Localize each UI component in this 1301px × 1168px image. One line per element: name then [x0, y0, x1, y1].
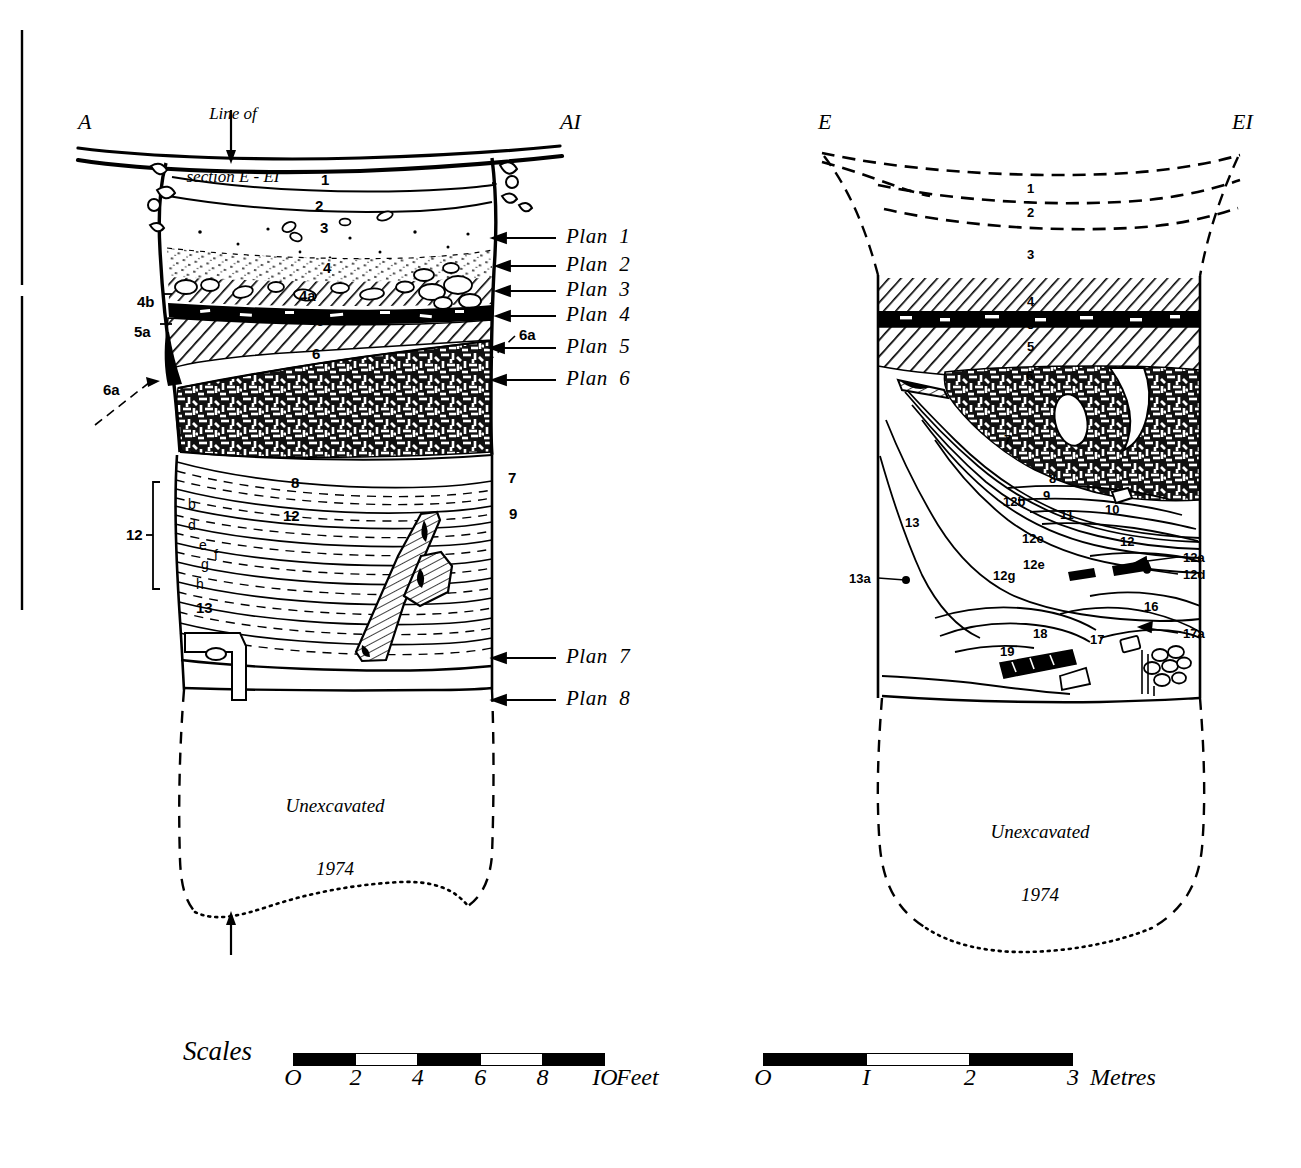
- left-ground-surface: [78, 146, 560, 159]
- stratum-r-12b: 12b: [1003, 495, 1025, 510]
- stratum-l-6a-left: 6a: [103, 382, 120, 399]
- left-6a-leader-arrow: [146, 377, 160, 387]
- stratum-r-10: 10: [1105, 503, 1119, 518]
- stratum-r-12g: 12g: [993, 569, 1015, 584]
- right-unexcavated-line2: 1974: [945, 884, 1135, 905]
- line-of-section-note: Line of section E - EI: [158, 60, 308, 230]
- stratum-r-17a: 17a: [1183, 627, 1205, 642]
- feet-scale-tick-O: O: [271, 1064, 315, 1091]
- plan-4-label: Plan 4: [566, 303, 630, 327]
- metres-scale-tick-2: 2: [948, 1064, 992, 1091]
- stratum-r-13a: 13a: [849, 572, 871, 587]
- right-layer4-band: [878, 278, 1200, 312]
- stratum-l-1: 1: [321, 172, 329, 189]
- right-cut-west-upper: [824, 156, 878, 275]
- stratum-l-2: 2: [315, 198, 323, 215]
- stratum-r-5b: 5: [1027, 340, 1034, 355]
- sublayer-sub-e: e: [199, 538, 207, 554]
- stratum-l-12: 12: [283, 508, 300, 525]
- scales-word: Scales: [183, 1036, 252, 1066]
- left-bracket-12-label: 12: [126, 527, 143, 544]
- stratum-l-4a: 4a: [299, 288, 316, 305]
- stratum-l-6a-top: 6a: [519, 327, 536, 344]
- plan-2-label: Plan 2: [566, 253, 630, 277]
- right-13a-leader: [878, 577, 909, 583]
- sublayer-sub-b: b: [188, 497, 196, 513]
- left-unexcavated-line1: Unexcavated: [240, 795, 430, 816]
- stratum-r-1: 1: [1027, 182, 1034, 197]
- plan-5-label: Plan 5: [566, 335, 630, 359]
- stratum-r-2: 2: [1027, 206, 1034, 221]
- stratum-r-19: 19: [1000, 645, 1014, 660]
- stratum-r-6: 6: [1026, 369, 1033, 384]
- stratum-l-7: 7: [508, 470, 516, 487]
- right-layer1-curve: [878, 180, 1240, 203]
- feet-scale-tick-8: 8: [521, 1064, 565, 1091]
- plan-6-label: Plan 6: [566, 367, 630, 391]
- line-of-section-line1: Line of: [158, 103, 308, 124]
- feet-scale-tick-6: 6: [458, 1064, 502, 1091]
- stratum-r-16: 16: [1144, 600, 1158, 615]
- stratum-r-12e2: 12e: [1023, 558, 1045, 573]
- line-of-section-line2: section E - EI: [158, 166, 308, 187]
- right-ground-surface: [822, 153, 1240, 175]
- metres-scale-tick-3: 3: [1051, 1064, 1095, 1091]
- plan-callout-leaders: [490, 233, 556, 705]
- stratum-r-12d: 12d: [1183, 568, 1205, 583]
- stratum-r-5a: 5: [1027, 318, 1034, 333]
- stratum-r-11: 11: [1060, 508, 1074, 523]
- left-bracket-12: [146, 482, 160, 589]
- stratum-l-8: 8: [291, 475, 299, 492]
- stratum-l-6: 6: [312, 346, 320, 363]
- sublayer-sub-d: d: [188, 518, 196, 534]
- stratum-l-13: 13: [196, 600, 213, 617]
- metres-scale-tick-O: O: [741, 1064, 785, 1091]
- stratum-l-3: 3: [320, 220, 328, 237]
- plan-8-label: Plan 8: [566, 687, 630, 711]
- stratum-l-4b: 4b: [137, 294, 155, 311]
- stratum-r-7: 7: [1004, 433, 1011, 448]
- figure-root: Line of section E - EI A AI E EI 12344a4…: [0, 0, 1301, 1168]
- stratum-r-13: 13: [905, 516, 919, 531]
- right-section-letter-e: E: [818, 110, 831, 135]
- sublayer-sub-h: h: [196, 577, 204, 593]
- right-section-letter-e1: EI: [1232, 110, 1253, 135]
- stratum-l-9: 9: [509, 506, 517, 523]
- stratum-r-12: 12: [1120, 535, 1134, 550]
- feet-scale-unit: Feet: [616, 1064, 659, 1091]
- right-timber-upper: [898, 380, 948, 398]
- metres-scale-unit: Metres: [1090, 1064, 1156, 1091]
- metres-scale-bar: [763, 1053, 1073, 1066]
- left-section-letter-a: A: [78, 110, 91, 135]
- stratum-l-5a: 5a: [134, 324, 151, 341]
- right-find-10-object: [1112, 488, 1132, 503]
- plan-3-label: Plan 3: [566, 278, 630, 302]
- left-unexcavated-caption: Unexcavated 1974: [240, 752, 430, 922]
- sublayer-sub-g: g: [201, 557, 209, 573]
- left-timber-stake: [356, 512, 452, 661]
- stratum-l-5: 5: [316, 313, 324, 330]
- stratum-r-3: 3: [1027, 248, 1034, 263]
- left-base-arrow: [226, 911, 236, 955]
- stratum-r-8: 8: [1049, 472, 1056, 487]
- plan-7-label: Plan 7: [566, 645, 630, 669]
- metres-scale-tick-I: I: [844, 1064, 888, 1091]
- right-unexcavated-line1: Unexcavated: [945, 821, 1135, 842]
- right-unexcavated-caption: Unexcavated 1974: [945, 778, 1135, 948]
- right-layer2-base: [884, 208, 1238, 229]
- sublayer-sub-f: f: [214, 548, 218, 564]
- stratum-r-17: 17: [1090, 633, 1104, 648]
- left-unexcavated-line2: 1974: [240, 858, 430, 879]
- stratum-r-18: 18: [1033, 627, 1047, 642]
- stratum-r-4: 4: [1027, 295, 1034, 310]
- feet-scale-tick-4: 4: [396, 1064, 440, 1091]
- stratum-l-4: 4: [323, 260, 331, 277]
- right-upper-edge-detail: [500, 162, 532, 211]
- right-pebble-cluster: [1144, 646, 1191, 686]
- stratum-r-9: 9: [1043, 489, 1050, 504]
- plan-1-label: Plan 1: [566, 225, 630, 249]
- stratum-r-12e1: 12e: [1022, 532, 1044, 547]
- left-section-letter-a1: AI: [560, 110, 581, 135]
- feet-scale-tick-2: 2: [333, 1064, 377, 1091]
- stratum-r-12a: 12a: [1183, 551, 1205, 566]
